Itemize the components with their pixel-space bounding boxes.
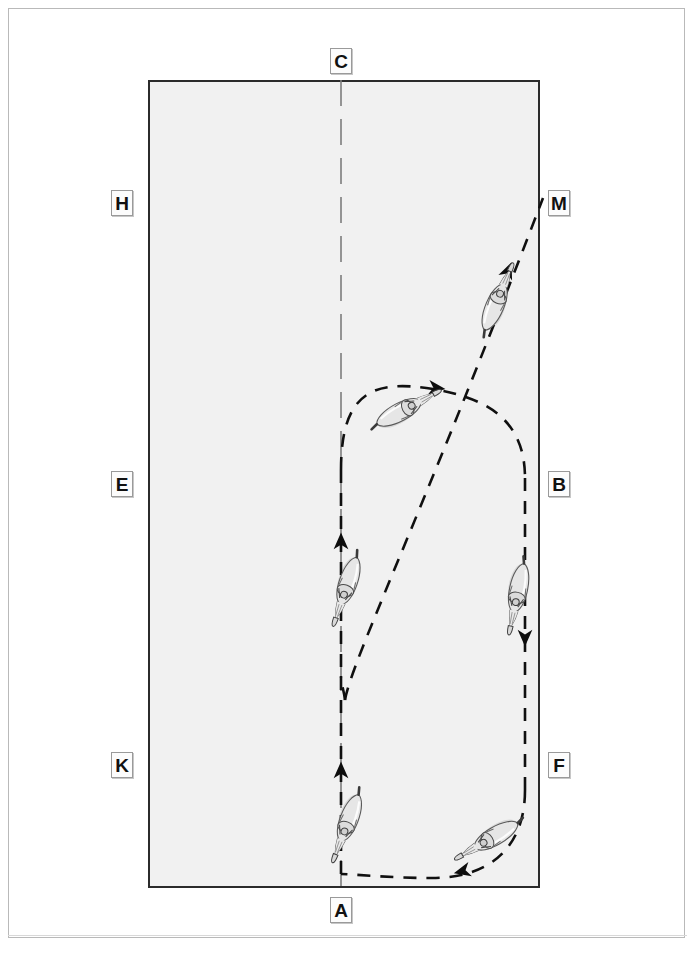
marker-H: H [111,190,133,216]
horse-rider-right-side [499,554,535,636]
marker-K: K [111,752,133,778]
horse-rider-centerline-low [323,784,370,866]
marker-E-label: E [116,475,129,494]
horse-rider-centerline-mid [323,547,367,629]
marker-C: C [330,48,352,74]
arrowhead-loop-bottom [452,862,472,880]
marker-K-label: K [115,756,129,775]
track-overlay [0,0,695,965]
marker-M: M [548,190,570,216]
marker-A: A [330,897,352,923]
diagram-page: C H M E B K F A [0,0,695,965]
marker-M-label: M [551,194,567,213]
marker-E: E [111,471,133,497]
marker-B-label: B [552,475,566,494]
marker-B: B [548,471,570,497]
marker-A-label: A [334,901,348,920]
marker-H-label: H [115,194,129,213]
arrowhead-right-side-down [518,630,533,647]
horse-rider-loop-bottom-right [449,810,528,867]
marker-F-label: F [553,756,565,775]
marker-F: F [548,752,570,778]
marker-C-label: C [334,52,348,71]
